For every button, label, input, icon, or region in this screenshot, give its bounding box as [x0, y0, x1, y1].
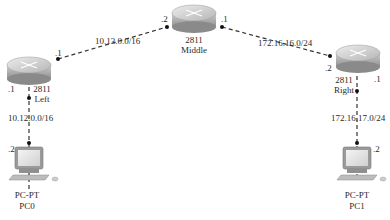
router-middle-model: 2811	[185, 35, 203, 45]
router-left-icon[interactable]	[7, 57, 51, 85]
pc0-type: PC-PT	[15, 190, 40, 200]
topology-links	[0, 0, 390, 220]
host-label-middle-to-right: .1	[221, 14, 228, 24]
network-label-right-pc1: 172.16.17.0/24	[331, 113, 385, 123]
port-dot-pc1	[355, 141, 359, 145]
host-label-middle-to-left: .2	[161, 14, 168, 24]
host-label-pc0: .2	[8, 144, 15, 154]
router-middle-name: Middle	[181, 45, 207, 55]
network-label-left-pc0: 10.12.0.0/16	[8, 113, 53, 123]
port-dot-pc0	[27, 141, 31, 145]
router-right-name: Right	[334, 85, 354, 95]
host-label-pc1: .2	[373, 144, 380, 154]
pc0-icon[interactable]	[9, 147, 58, 181]
port-dot-right-pc1	[355, 89, 359, 93]
port-dot-middle-left	[165, 25, 169, 29]
port-dot-left-pc0	[27, 96, 31, 100]
host-label-right-to-pc1: .1	[374, 74, 381, 84]
router-right-icon[interactable]	[336, 45, 380, 73]
pc1-type: PC-PT	[345, 190, 370, 200]
host-label-left-to-middle: .1	[55, 48, 62, 58]
host-label-right-to-middle: .2	[325, 63, 332, 73]
network-label-middle-right: 172.16.16.0/24	[258, 38, 312, 48]
pc1-name: PC1	[349, 201, 365, 211]
network-label-left-middle: 10.13.0.0/16	[95, 36, 140, 46]
host-label-left-to-pc0: .1	[8, 84, 15, 94]
router-middle-icon[interactable]	[172, 5, 216, 33]
port-dot-middle-right	[220, 25, 224, 29]
router-left-model: 2811	[33, 84, 51, 94]
port-dot-right-middle	[328, 54, 332, 58]
router-right-model: 2811	[335, 75, 353, 85]
pc0-name: PC0	[19, 201, 35, 211]
router-left-name: Left	[35, 94, 50, 104]
